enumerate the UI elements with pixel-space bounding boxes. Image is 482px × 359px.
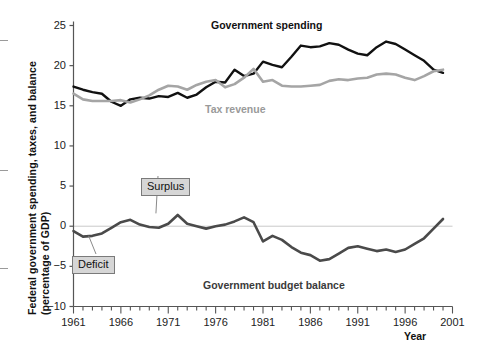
series-label-tax-revenue: Tax revenue <box>205 103 266 115</box>
series-label-government-spending: Government spending <box>211 19 322 31</box>
y-tick-label: 15 <box>38 99 66 111</box>
series-line-government-budget-balance <box>74 215 444 261</box>
chart-figure: Federal government spending, taxes, and … <box>0 0 482 359</box>
callout-surplus: Surplus <box>141 178 190 196</box>
y-tick-label: 20 <box>38 59 66 71</box>
callout-deficit: Deficit <box>72 256 115 274</box>
x-axis-title: Year <box>404 330 426 342</box>
callout-leader-deficit <box>89 236 96 254</box>
x-tick-label: 1996 <box>385 316 425 328</box>
x-tick-label: 1981 <box>243 316 283 328</box>
series-label-government-budget-balance: Government budget balance <box>203 279 345 291</box>
x-tick-label: 1961 <box>54 316 94 328</box>
y-tick-label: −10 <box>38 300 66 312</box>
y-tick-label: 0 <box>38 219 66 231</box>
edge-mark-middle <box>0 170 8 171</box>
x-tick-label: 1991 <box>338 316 378 328</box>
x-tick-label: 1986 <box>290 316 330 328</box>
y-tick-label: 10 <box>38 139 66 151</box>
x-tick-label: 1976 <box>196 316 236 328</box>
edge-mark-bottom <box>0 268 8 269</box>
x-tick-label: 1966 <box>101 316 141 328</box>
y-tick-label: 5 <box>38 179 66 191</box>
series-line-tax-revenue <box>74 69 444 103</box>
x-tick-label: 2001 <box>433 316 473 328</box>
plot-area <box>0 0 482 359</box>
x-tick-label: 1971 <box>148 316 188 328</box>
edge-mark-top <box>0 40 8 41</box>
y-tick-label: 25 <box>38 19 66 31</box>
y-tick-label: −5 <box>38 259 66 271</box>
